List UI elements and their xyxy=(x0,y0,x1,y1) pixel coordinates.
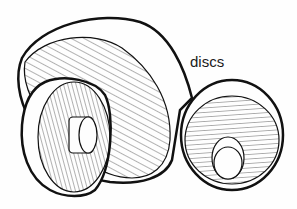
discs-label: discs xyxy=(190,53,224,70)
discs-drawing xyxy=(0,0,297,209)
left-disc-hole-rim xyxy=(79,117,97,153)
discs-illustration: discs xyxy=(0,0,297,209)
right-disc-hole-inner xyxy=(214,147,242,179)
